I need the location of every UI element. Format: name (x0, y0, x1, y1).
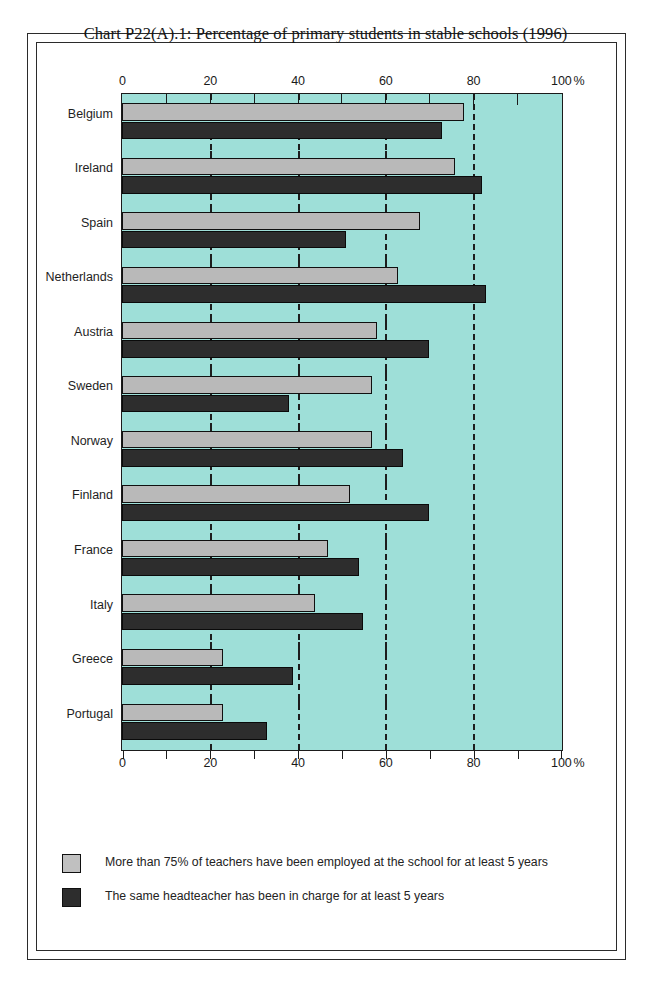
bar-light-finland (122, 485, 350, 503)
x-tick-label-80: 80 (467, 74, 481, 88)
x-tick-label-0: 0 (119, 74, 126, 88)
bar-light-netherlands (122, 267, 398, 285)
gap-tick (385, 587, 387, 599)
bar-dark-italy (122, 613, 363, 631)
legend-item: More than 75% of teachers have been empl… (62, 852, 582, 886)
x-tick-label-100: 100 (551, 756, 572, 770)
bar-dark-austria (122, 340, 429, 358)
page-title: Chart P22(A).1: Percentage of primary st… (0, 24, 651, 44)
legend-item: The same headteacher has been in charge … (62, 886, 582, 920)
gap-tick (298, 642, 300, 654)
x-axis-unit-label: % (573, 756, 584, 770)
bar-light-sweden (122, 376, 372, 394)
x-tick-label-100: 100 (551, 74, 572, 88)
gap-tick (298, 696, 300, 708)
bar-light-spain (122, 212, 420, 230)
x-tick-label-60: 60 (379, 74, 393, 88)
legend-swatch-light (62, 854, 81, 873)
bar-dark-finland (122, 504, 429, 522)
x-tick-label-0: 0 (119, 756, 126, 770)
y-tick-label-portugal: Portugal (66, 707, 113, 721)
plot-area (121, 93, 563, 751)
x-tick-label-20: 20 (203, 756, 217, 770)
bar-dark-belgium (122, 122, 442, 140)
bar-dark-greece (122, 667, 293, 685)
bar-light-portugal (122, 704, 223, 722)
bar-dark-sweden (122, 395, 289, 413)
y-tick-label-spain: Spain (81, 216, 113, 230)
bar-dark-netherlands (122, 285, 486, 303)
gap-tick (385, 314, 387, 326)
x-tick-label-40: 40 (291, 74, 305, 88)
x-axis-unit-label: % (573, 74, 584, 88)
y-axis-category-labels: BelgiumIrelandSpainNetherlandsAustriaSwe… (0, 93, 113, 751)
plot-top-tick (473, 94, 474, 105)
y-tick-label-france: France (74, 543, 113, 557)
x-axis-bottom: 020406080100% (0, 756, 651, 772)
x-tick-label-80: 80 (467, 756, 481, 770)
y-tick-label-sweden: Sweden (68, 379, 113, 393)
y-tick-label-greece: Greece (72, 652, 113, 666)
bar-dark-ireland (122, 176, 482, 194)
bar-dark-france (122, 558, 359, 576)
gap-tick (385, 478, 387, 490)
bar-dark-norway (122, 449, 403, 467)
x-tick-label-60: 60 (379, 756, 393, 770)
gap-tick (385, 696, 387, 708)
x-tick-label-20: 20 (203, 74, 217, 88)
y-tick-label-ireland: Ireland (75, 161, 113, 175)
bar-light-france (122, 540, 328, 558)
y-tick-label-italy: Italy (90, 598, 113, 612)
gap-tick (385, 642, 387, 654)
y-tick-label-belgium: Belgium (68, 107, 113, 121)
x-tick-label-40: 40 (291, 756, 305, 770)
gap-tick (385, 369, 387, 381)
bar-light-norway (122, 431, 372, 449)
bar-light-italy (122, 594, 315, 612)
bar-light-greece (122, 649, 223, 667)
x-axis-top: 020406080100% (0, 74, 651, 90)
legend-swatch-dark (62, 888, 81, 907)
plot-top-tick (517, 94, 518, 105)
y-tick-label-norway: Norway (71, 434, 113, 448)
bar-dark-spain (122, 231, 346, 249)
bar-dark-portugal (122, 722, 267, 740)
legend-label: The same headteacher has been in charge … (105, 889, 444, 903)
plot-inner (122, 94, 562, 750)
bar-light-austria (122, 322, 377, 340)
y-tick-label-austria: Austria (74, 325, 113, 339)
legend-label: More than 75% of teachers have been empl… (105, 855, 548, 869)
y-tick-label-finland: Finland (72, 488, 113, 502)
gap-tick (385, 423, 387, 435)
bar-light-belgium (122, 103, 464, 121)
gap-tick (385, 533, 387, 545)
legend: More than 75% of teachers have been empl… (62, 852, 582, 920)
bar-light-ireland (122, 158, 455, 176)
y-tick-label-netherlands: Netherlands (46, 270, 113, 284)
